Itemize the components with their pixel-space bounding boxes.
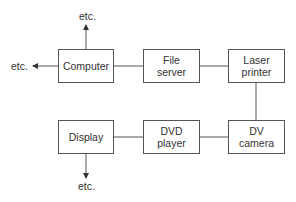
node-display: Display [58,120,114,154]
node-label: File server [157,54,186,78]
etc-label-left: etc. [11,60,28,72]
node-dv-camera: DV camera [228,120,285,154]
node-label: Laser printer [242,54,272,78]
node-label: Display [69,131,103,143]
node-laser-printer: Laser printer [228,49,285,83]
node-file-server: File server [143,49,200,83]
connection-lines [0,0,296,202]
etc-label-bottom: etc. [78,180,95,192]
node-label: DVD player [157,125,186,149]
node-dvd-player: DVD player [143,120,200,154]
node-computer: Computer [58,49,114,83]
etc-label-top: etc. [79,10,96,22]
node-label: Computer [63,60,109,72]
node-label: DV camera [239,125,274,149]
